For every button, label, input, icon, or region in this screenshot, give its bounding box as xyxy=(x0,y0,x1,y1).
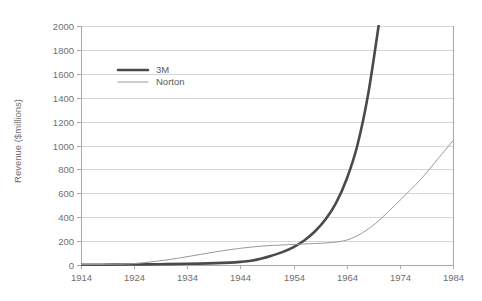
y-tick-label: 0 xyxy=(69,260,74,271)
x-tick-label: 1944 xyxy=(230,272,251,283)
y-tick-label: 1000 xyxy=(53,141,74,152)
x-tick-label: 1924 xyxy=(124,272,145,283)
chart-canvas: 0200400600800100012001400160018002000 19… xyxy=(0,0,482,301)
y-tick-label: 1400 xyxy=(53,93,74,104)
revenue-line-chart: 0200400600800100012001400160018002000 19… xyxy=(0,0,482,301)
y-tick-label: 400 xyxy=(58,212,74,223)
x-tick-label: 1984 xyxy=(443,272,464,283)
legend-label-norton: Norton xyxy=(156,76,185,87)
legend-label-3m: 3M xyxy=(156,64,169,75)
y-tick-label: 1800 xyxy=(53,45,74,56)
y-tick-label: 800 xyxy=(58,164,74,175)
x-tick-label: 1974 xyxy=(390,272,411,283)
x-tick-label: 1964 xyxy=(337,272,358,283)
x-tick-label: 1934 xyxy=(177,272,198,283)
y-tick-label: 2000 xyxy=(53,21,74,32)
y-tick-label: 200 xyxy=(58,236,74,247)
y-axis-title: Revenue ($millions) xyxy=(12,99,23,183)
y-tick-label: 600 xyxy=(58,188,74,199)
x-tick-label: 1954 xyxy=(284,272,305,283)
x-tick-label: 1914 xyxy=(71,272,92,283)
y-tick-label: 1600 xyxy=(53,69,74,80)
y-tick-label: 1200 xyxy=(53,117,74,128)
